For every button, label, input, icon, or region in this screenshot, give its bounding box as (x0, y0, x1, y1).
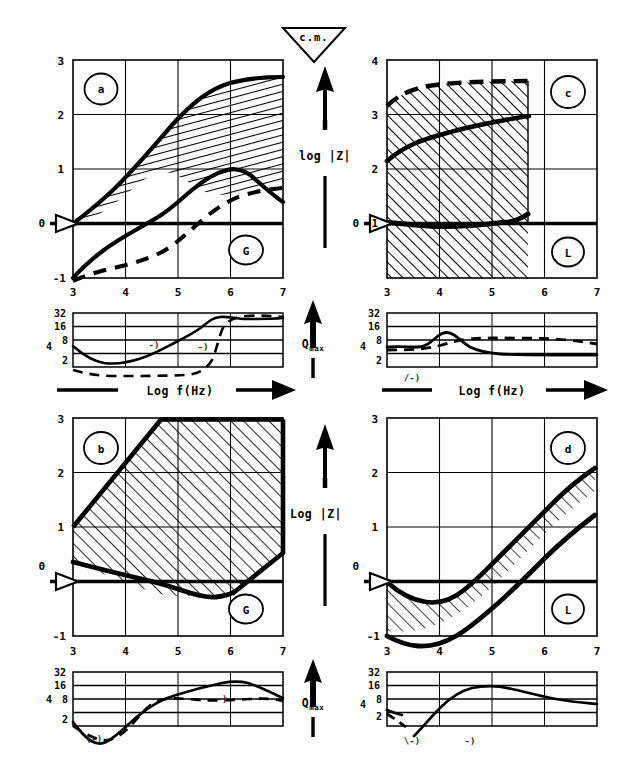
panel-b-xtick-4: 4 (122, 645, 129, 658)
cm-marker-label: c.m. (299, 31, 328, 43)
panel-c-ytick-0: 0 (352, 217, 359, 230)
panel-c-qmax: 32 16 8 4 2 /-) (360, 308, 597, 383)
figure-svg: 3 2 1 0 -1 3 4 5 6 7 a G (0, 0, 635, 777)
panel-d-xtick-6: 6 (541, 645, 548, 658)
panel-d-ytick-0: 0 (352, 560, 359, 573)
panel-b-ytick-1: 1 (57, 521, 64, 534)
panel-c-xtick-4: 4 (436, 286, 443, 299)
panel-b-id-label: b (98, 443, 105, 456)
panel-b-ytick-3: 3 (57, 413, 64, 426)
xaxis-label-top-left: Log f(Hz) (57, 380, 296, 400)
qmax-axis-arrow-top: Qmax (302, 300, 324, 378)
panel-c-id-badge: c (551, 76, 585, 108)
panel-c-qtick-32: 32 (368, 308, 380, 319)
panel-d-id-badge: d (551, 432, 585, 464)
panel-c-xtick-3: 3 (384, 286, 391, 299)
panel-c-ytick-4: 4 (371, 55, 378, 68)
panel-a-circuit-label: G (243, 245, 250, 258)
panel-b-qmax-annotation-2: -) (217, 694, 228, 704)
panel-a-xtick-6: 6 (227, 286, 234, 299)
xaxis-label-top-right: Log f(Hz) (382, 380, 608, 400)
panel-d-qtick-4: 4 (360, 699, 366, 710)
panel-b-qtick-8: 8 (62, 694, 68, 705)
panel-b-qtick-16: 16 (54, 680, 66, 691)
panel-c-xtick-7: 7 (594, 286, 601, 299)
panel-b-id-badge: b (84, 432, 118, 464)
panel-c-qtick-4: 4 (360, 341, 366, 352)
panel-d-qtick-32: 32 (368, 667, 380, 678)
panel-a-id-label: a (98, 83, 105, 96)
panel-c-qtick-8: 8 (376, 335, 382, 346)
panel-b-ytick-2: 2 (57, 467, 64, 480)
panel-d-ytick-neg1: -1 (367, 630, 381, 643)
panel-c-xtick-6: 6 (541, 286, 548, 299)
panel-c-circuit-label: L (565, 247, 572, 260)
panel-d-xtick-4: 4 (436, 645, 443, 658)
panel-a-xtick-3: 3 (70, 286, 77, 299)
panel-d-qtick-8: 8 (376, 694, 382, 705)
panel-c-qtick-16: 16 (368, 321, 380, 332)
cm-marker: c.m. (283, 28, 345, 62)
panel-a-ytick-3: 3 (57, 55, 64, 68)
panel-d-id-label: d (565, 443, 572, 456)
panel-c-qmax-annotation-1: /-) (404, 373, 420, 383)
panel-d-qtick-2: 2 (376, 711, 382, 722)
panel-a-qtick-2: 2 (62, 355, 68, 366)
figure-root: 3 2 1 0 -1 3 4 5 6 7 a G (0, 0, 635, 777)
panel-a-ytick-2: 2 (57, 109, 64, 122)
panel-d-qmax-annotation-1: \-) (404, 736, 420, 746)
logz-axis-arrow-bottom: Log |Z| (290, 424, 342, 606)
panel-a-circuit-badge: G (229, 236, 263, 265)
panel-b-qtick-4: 4 (46, 694, 52, 705)
panel-d-qmax-grid (387, 672, 597, 726)
panel-d: 3 2 1 0 -1 3 4 5 6 7 d L (352, 413, 600, 658)
qmax-label-main: Q (302, 337, 309, 351)
panel-a-qtick-8: 8 (62, 335, 68, 346)
panel-d-xtick-7: 7 (594, 645, 601, 658)
panel-a-qtick-32: 32 (54, 308, 66, 319)
panel-b-circuit-label: G (243, 604, 250, 617)
logz-axis-label-bottom: Log |Z| (290, 507, 342, 521)
xaxis-label-top-right-text: Log f(Hz) (459, 384, 526, 398)
panel-c-shaded-region (387, 81, 528, 278)
panel-c-ytick-3: 3 (371, 109, 378, 122)
panel-c-circuit-badge: L (552, 238, 584, 267)
panel-a-qtick-4: 4 (46, 341, 52, 352)
panel-a-xtick-7: 7 (280, 286, 287, 299)
panel-b-qmax-annotation-1: (-) (86, 734, 102, 744)
panel-c-qtick-2: 2 (376, 355, 382, 366)
panel-b-ytick-neg1: -1 (53, 630, 67, 643)
panel-a-ytick-1: 1 (57, 163, 64, 176)
panel-d-qmax-dashed (387, 714, 406, 727)
panel-d-ytick-2: 2 (371, 467, 378, 480)
panel-b-qmax: 32 16 8 4 2 (-) -) (46, 667, 283, 744)
panel-a-id-badge: a (85, 74, 118, 105)
panel-c-ytick-2: 2 (371, 163, 378, 176)
panel-c-id-label: c (565, 87, 572, 100)
panel-b: 3 2 1 0 -1 3 4 5 6 7 b G (38, 413, 286, 658)
qmax-axis-arrow-bottom: Qmax (302, 659, 324, 737)
panel-d-circuit-label: L (565, 604, 572, 617)
logz-axis-arrow-top: log |Z| (299, 66, 351, 248)
panel-d-qtick-16: 16 (368, 680, 380, 691)
panel-b-xtick-3: 3 (70, 645, 77, 658)
qmax-label-sub: max (309, 344, 324, 353)
logz-axis-label-top: log |Z| (299, 149, 351, 163)
panel-b-circuit-badge: G (229, 595, 263, 624)
panel-c: 4 3 2 1 0 3 4 5 6 7 c L (352, 55, 600, 299)
panel-b-xtick-7: 7 (280, 645, 287, 658)
panel-d-ytick-1: 1 (371, 521, 378, 534)
panel-d-ytick-3: 3 (371, 413, 378, 426)
panel-a-ytick-0: 0 (38, 217, 45, 230)
panel-b-xtick-5: 5 (175, 645, 182, 658)
panel-a-qmax-annotation-1: -) (149, 340, 160, 350)
panel-a-qmax-annotation-2: -) (198, 342, 209, 352)
panel-d-xtick-5: 5 (489, 645, 496, 658)
panel-a-ytick-neg1: -1 (53, 272, 67, 285)
panel-a-qtick-16: 16 (54, 321, 66, 332)
panel-d-qmax: 32 16 8 4 2 \-) -) (360, 667, 597, 746)
panel-a-xtick-4: 4 (122, 286, 129, 299)
xaxis-label-top-left-text: Log f(Hz) (147, 384, 214, 398)
panel-a-xtick-5: 5 (175, 286, 182, 299)
panel-c-xtick-5: 5 (489, 286, 496, 299)
